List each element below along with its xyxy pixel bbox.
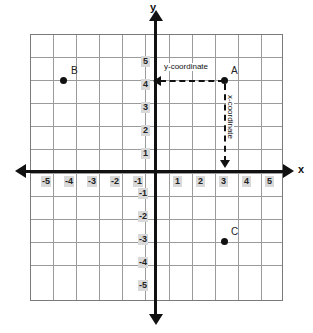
point-a-marker[interactable] bbox=[221, 77, 228, 84]
y-tick-label: -1 bbox=[138, 188, 148, 199]
y-tick-label: -4 bbox=[138, 257, 148, 268]
x-coordinate-arrowhead-icon bbox=[220, 160, 230, 168]
y-tick-label: -2 bbox=[138, 211, 148, 222]
point-b-label: B bbox=[71, 66, 78, 76]
y-tick-label: 2 bbox=[141, 125, 150, 136]
y-axis bbox=[154, 18, 157, 318]
x-tick-label: -1 bbox=[133, 176, 143, 187]
gridline-vertical bbox=[99, 35, 100, 300]
x-axis-right-arrow-icon bbox=[283, 164, 294, 178]
y-coordinate-arrowhead-icon bbox=[153, 76, 161, 86]
gridline-vertical bbox=[169, 35, 170, 300]
x-tick-label: -5 bbox=[41, 176, 51, 187]
gridline-vertical bbox=[215, 35, 216, 300]
x-tick-label: 3 bbox=[219, 176, 228, 187]
y-tick-label: 3 bbox=[141, 102, 150, 113]
x-axis-label: x bbox=[298, 164, 304, 175]
y-tick-label: 4 bbox=[141, 79, 150, 90]
x-tick-label: 5 bbox=[265, 176, 274, 187]
x-axis-left-arrow-icon bbox=[15, 164, 26, 178]
y-coordinate-annotation: y-coordinate bbox=[163, 63, 209, 71]
gridline-vertical bbox=[238, 35, 239, 300]
point-b-marker[interactable] bbox=[60, 77, 67, 84]
point-a-label: A bbox=[231, 66, 238, 76]
x-tick-label: -2 bbox=[110, 176, 120, 187]
gridline-vertical bbox=[192, 35, 193, 300]
y-coordinate-dashed-line bbox=[160, 80, 224, 82]
y-tick-label: 1 bbox=[141, 148, 150, 159]
y-tick-label: 5 bbox=[141, 56, 150, 67]
point-c-marker[interactable] bbox=[221, 238, 228, 245]
y-tick-label: -5 bbox=[138, 280, 148, 291]
y-tick-label: -3 bbox=[138, 234, 148, 245]
coordinate-plane-diagram: x y -5 -4 -3 -2 -1 1 2 3 4 5 5 4 3 2 1 -… bbox=[0, 0, 313, 333]
y-axis-down-arrow-icon bbox=[149, 314, 163, 325]
x-tick-label: -4 bbox=[64, 176, 74, 187]
x-tick-label: 2 bbox=[196, 176, 205, 187]
point-c-label: C bbox=[231, 227, 238, 237]
x-tick-label: 4 bbox=[242, 176, 251, 187]
y-axis-label: y bbox=[150, 2, 156, 13]
gridline-vertical bbox=[261, 35, 262, 300]
gridline-vertical bbox=[122, 35, 123, 300]
x-tick-label: -3 bbox=[87, 176, 97, 187]
x-tick-label: 1 bbox=[173, 176, 182, 187]
gridline-vertical bbox=[53, 35, 54, 300]
x-coordinate-annotation: x-coordinate bbox=[226, 94, 234, 140]
